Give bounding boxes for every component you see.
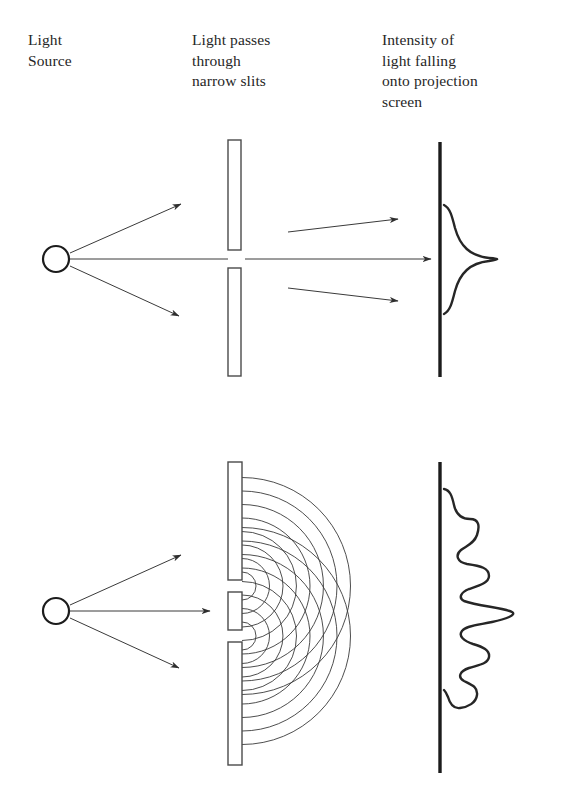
caption-light-passes-through-narrow-slits: Light passes through narrow slits [192, 30, 352, 92]
light-source-top [43, 246, 69, 272]
ray-up-icon [70, 555, 181, 605]
barrier-bar-bottom [228, 268, 241, 376]
barrier-bar-middle [228, 592, 242, 630]
exit-ray-up-icon [288, 219, 398, 232]
barrier-bar-bottom [228, 642, 242, 765]
wavefront-arcs [242, 478, 351, 745]
barrier-bar-top [228, 462, 242, 580]
ray-down-icon [70, 266, 179, 316]
intensity-curve-interference-fringes [444, 489, 513, 708]
bottom-light-rays [70, 555, 210, 668]
ray-up-icon [70, 204, 181, 253]
light-source-bottom [43, 598, 69, 624]
barrier-bar-top [228, 140, 241, 250]
caption-intensity-of-light: Intensity of light falling onto projecti… [382, 30, 557, 112]
double-slit-panel [43, 462, 513, 773]
single-slit-panel [43, 140, 497, 377]
ray-down-icon [70, 618, 179, 668]
figure-root: Light Source Light passes through narrow… [0, 0, 573, 789]
top-exit-rays [245, 219, 431, 301]
exit-ray-down-icon [288, 288, 398, 301]
caption-light-source: Light Source [28, 30, 168, 71]
top-light-rays [70, 204, 228, 316]
intensity-curve-single-peak [444, 205, 497, 314]
diagram-canvas [0, 0, 573, 789]
